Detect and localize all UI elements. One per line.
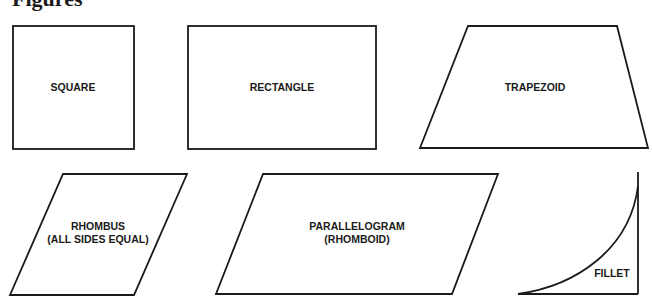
square-figure: SQUARE <box>13 26 134 149</box>
square-label: SQUARE <box>51 81 96 93</box>
rectangle-label: RECTANGLE <box>250 81 315 93</box>
parallelogram-figure: PARALLELOGRAM (RHOMBOID) <box>216 174 498 294</box>
figures-diagram: SQUARE RECTANGLE TRAPEZOID RHOMBUS (ALL … <box>0 0 652 301</box>
parallelogram-label-line2: (RHOMBOID) <box>324 233 389 245</box>
parallelogram-label-line1: PARALLELOGRAM <box>309 220 405 232</box>
trapezoid-figure: TRAPEZOID <box>420 26 648 148</box>
fillet-figure: FILLET <box>518 172 638 294</box>
rectangle-figure: RECTANGLE <box>188 26 376 149</box>
fillet-label: FILLET <box>594 267 630 279</box>
rhombus-label-line1: RHOMBUS <box>71 220 125 232</box>
trapezoid-label: TRAPEZOID <box>505 81 566 93</box>
rhombus-label-line2: (ALL SIDES EQUAL) <box>47 233 148 245</box>
rhombus-figure: RHOMBUS (ALL SIDES EQUAL) <box>10 174 187 295</box>
